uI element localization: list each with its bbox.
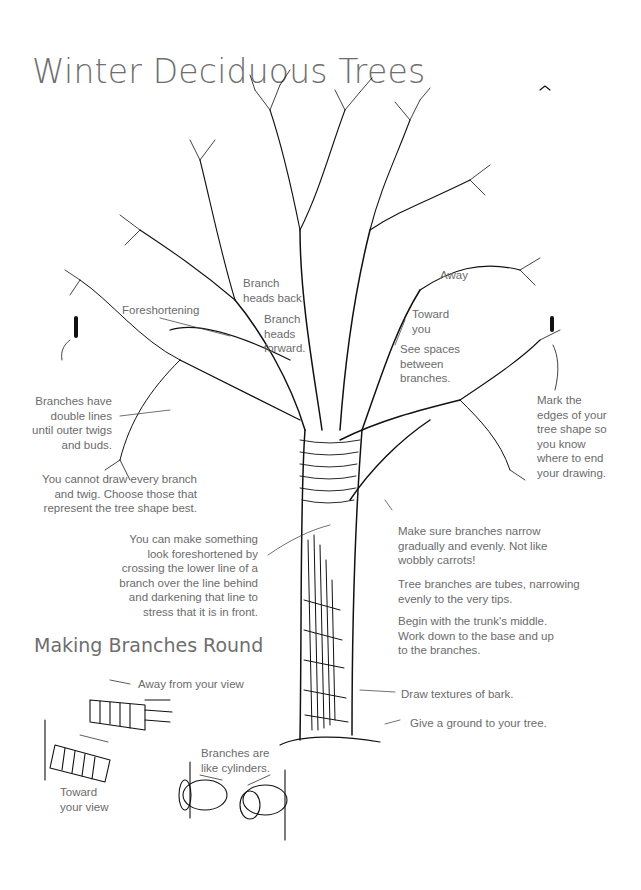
annotation-begin-middle: Begin with the trunk's middle. Work down…	[398, 614, 554, 658]
annotation-foreshortening: Foreshortening	[122, 303, 199, 318]
annotation-foreshortened-tip: You can make something look foreshortene…	[100, 532, 258, 619]
annotation-branch-heads-back: Branch heads back.	[243, 276, 305, 305]
annotation-tubes: Tree branches are tubes, narrowing evenl…	[398, 577, 580, 606]
annotation-toward-view: Toward your view	[60, 785, 109, 814]
annotation-away-from-view: Away from your view	[138, 677, 244, 692]
annotation-cannot-draw-every: You cannot draw every branch and twig. C…	[20, 472, 197, 516]
annotation-see-spaces: See spaces between branches.	[400, 342, 460, 386]
annotation-away: Away	[440, 268, 468, 283]
annotation-double-lines: Branches have double lines until outer t…	[20, 394, 112, 452]
annotation-cylinders: Branches are like cylinders.	[201, 746, 270, 775]
annotation-ground: Give a ground to your tree.	[410, 716, 547, 731]
annotation-mark-edges: Mark the edges of your tree shape so you…	[537, 393, 607, 480]
section-title: Making Branches Round	[34, 634, 263, 656]
annotation-narrow-gradually: Make sure branches narrow gradually and …	[398, 524, 547, 568]
annotation-branch-heads-forward: Branch heads forward.	[264, 312, 306, 356]
annotation-toward-you: Toward you	[412, 307, 449, 336]
annotation-bark: Draw textures of bark.	[401, 687, 513, 702]
